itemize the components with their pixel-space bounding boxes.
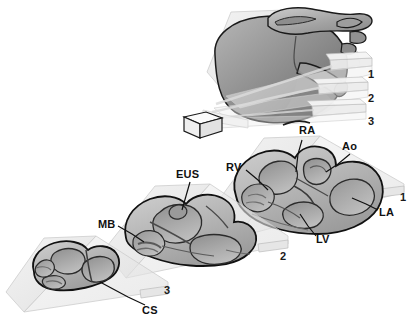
label-eus: EUS: [176, 169, 199, 180]
figure-canvas: 1 2 3 RA Ao RV LA LV 1 EUS MB 2 CS 3: [0, 0, 412, 324]
orientation-cube: [184, 112, 222, 138]
label-rv: RV: [226, 162, 241, 173]
label-la: LA: [379, 207, 394, 218]
plane-number-1: 1: [368, 69, 374, 80]
section-number-2: 2: [280, 251, 286, 262]
section-number-1: 1: [400, 192, 406, 203]
label-ra: RA: [299, 125, 315, 136]
label-lv: LV: [316, 234, 330, 245]
cs-structure: [82, 257, 114, 283]
heart-3d-model-group: [184, 8, 372, 138]
label-mb: MB: [98, 219, 116, 230]
plane-number-2: 2: [368, 93, 374, 104]
label-ao: Ao: [342, 141, 357, 152]
label-cs: CS: [142, 305, 158, 316]
heart-sections-illustration: [0, 0, 412, 324]
section-number-3: 3: [164, 285, 170, 296]
plane-number-3: 3: [368, 116, 374, 127]
